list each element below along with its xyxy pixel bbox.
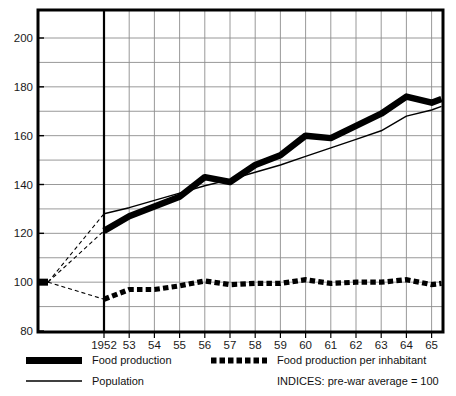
y-tick-label: 80 xyxy=(20,325,33,337)
x-tick-label: 56 xyxy=(198,339,211,351)
y-tick-label: 120 xyxy=(14,227,33,239)
x-tick-label: 61 xyxy=(324,339,337,351)
chart-background xyxy=(0,0,456,396)
x-tick-label: 58 xyxy=(249,339,262,351)
legend-label-food-production-per-inhabitant: Food production per inhabitant xyxy=(277,354,426,366)
chart-figure: 80100120140160180200 1952535455565758596… xyxy=(0,0,456,396)
y-tick-label: 100 xyxy=(14,276,33,288)
x-tick-label: 55 xyxy=(173,339,186,351)
prewar-anchor-marker xyxy=(39,279,48,286)
x-tick-label: 59 xyxy=(274,339,287,351)
legend-swatch-food-production xyxy=(26,357,82,364)
x-tick-label: 1952 xyxy=(91,339,117,351)
x-tick-label: 57 xyxy=(224,339,237,351)
legend-label-food-production: Food production xyxy=(92,354,172,366)
y-tick-label: 200 xyxy=(14,32,33,44)
x-tick-label: 62 xyxy=(350,339,363,351)
x-tick-label: 60 xyxy=(299,339,312,351)
x-tick-label: 54 xyxy=(148,339,161,351)
legend-indices-note: INDICES: pre-war average = 100 xyxy=(277,375,439,387)
x-tick-label: 65 xyxy=(425,339,438,351)
x-tick-label: 53 xyxy=(123,339,136,351)
x-tick-label: 64 xyxy=(400,339,413,351)
y-tick-label: 180 xyxy=(14,81,33,93)
y-tick-label: 140 xyxy=(14,179,33,191)
x-tick-label: 63 xyxy=(375,339,388,351)
legend-label-population: Population xyxy=(92,375,144,387)
y-tick-label: 160 xyxy=(14,130,33,142)
